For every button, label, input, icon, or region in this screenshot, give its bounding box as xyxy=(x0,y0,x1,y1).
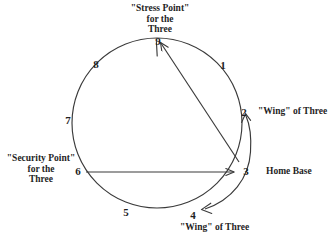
home-base-caption: Home Base xyxy=(266,166,312,177)
point-label-2: 2 xyxy=(237,106,251,118)
point-label-3: 3 xyxy=(239,165,253,177)
point-label-4: 4 xyxy=(186,209,200,221)
wing-of-three-right-caption: "Wing" of Three xyxy=(258,106,327,117)
point-label-7: 7 xyxy=(61,114,75,126)
stress-point-caption: "Stress Point" for the Three xyxy=(110,3,210,35)
point-label-9: 9 xyxy=(151,35,165,47)
point-label-5: 5 xyxy=(119,206,133,218)
wing-of-three-bottom-caption: "Wing" of Three xyxy=(180,222,249,233)
wing-arc xyxy=(205,116,251,209)
point-label-1: 1 xyxy=(216,59,230,71)
point-label-8: 8 xyxy=(89,58,103,70)
enneagram-diagram: 1 2 3 4 5 6 7 8 9 "Stress Point" for the… xyxy=(0,0,332,241)
security-point-caption: "Security Point" for the Three xyxy=(2,153,80,185)
enneagram-graphic xyxy=(0,0,332,241)
